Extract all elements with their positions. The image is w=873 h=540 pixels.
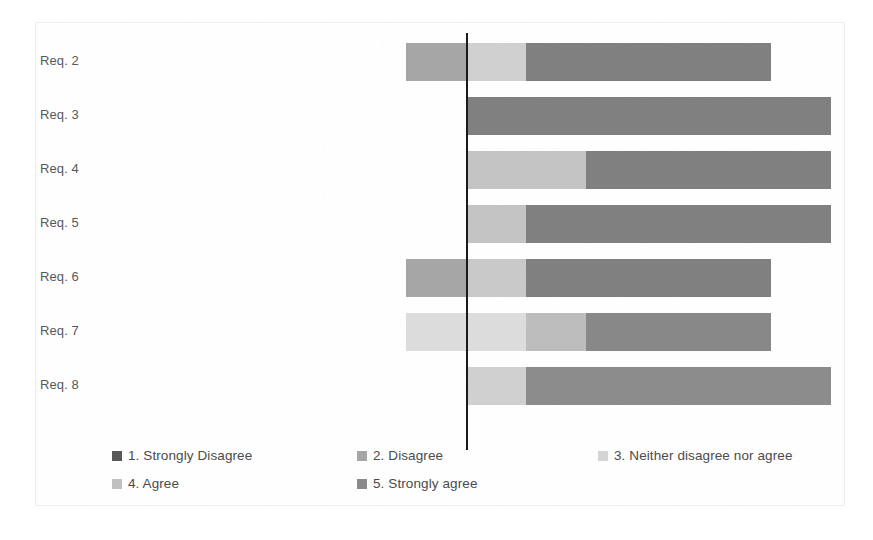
bar-row [0, 367, 873, 405]
legend-item[interactable]: 5. Strongly agree [357, 476, 478, 491]
legend-label: 2. Disagree [373, 448, 443, 463]
legend-item[interactable]: 1. Strongly Disagree [112, 448, 252, 463]
bar-segment [466, 259, 526, 297]
bar-segment [526, 259, 771, 297]
bar-segment [466, 97, 831, 135]
bar-segment [406, 43, 466, 81]
bar-segment [526, 313, 586, 351]
bar-row [0, 151, 873, 189]
legend-swatch-icon [112, 451, 122, 461]
bar-row [0, 97, 873, 135]
bar-segment [526, 43, 771, 81]
bar-segment [406, 259, 466, 297]
legend-swatch-icon [357, 479, 367, 489]
legend-item[interactable]: 2. Disagree [357, 448, 443, 463]
bar-row [0, 205, 873, 243]
bar-segment [466, 151, 586, 189]
bar-segment [466, 43, 526, 81]
legend-label: 1. Strongly Disagree [128, 448, 252, 463]
bar-row [0, 313, 873, 351]
bar-segment [466, 367, 526, 405]
zero-axis-line [466, 33, 468, 450]
bar-row [0, 259, 873, 297]
likert-bar-chart: Req. 2Req. 3Req. 4Req. 5Req. 6Req. 7Req.… [0, 0, 873, 540]
chart-legend: 1. Strongly Disagree2. Disagree3. Neithe… [0, 448, 873, 508]
legend-swatch-icon [112, 479, 122, 489]
legend-label: 3. Neither disagree nor agree [614, 448, 793, 463]
bar-row [0, 43, 873, 81]
legend-label: 4. Agree [128, 476, 179, 491]
bar-segment [586, 313, 771, 351]
legend-item[interactable]: 4. Agree [112, 476, 179, 491]
plot-area: Req. 2Req. 3Req. 4Req. 5Req. 6Req. 7Req.… [0, 0, 873, 440]
bar-segment [526, 205, 831, 243]
legend-swatch-icon [598, 451, 608, 461]
legend-label: 5. Strongly agree [373, 476, 478, 491]
bar-segment [526, 367, 831, 405]
bar-segment [466, 205, 526, 243]
legend-swatch-icon [357, 451, 367, 461]
legend-item[interactable]: 3. Neither disagree nor agree [598, 448, 793, 463]
bar-segment [586, 151, 831, 189]
